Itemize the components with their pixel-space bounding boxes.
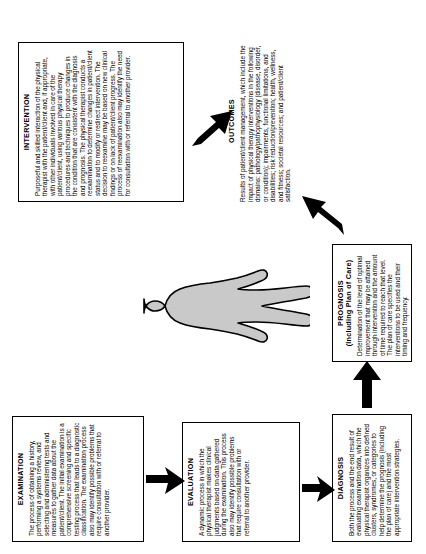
box-evaluation-body: A dynamic process in which the physical … <box>198 428 251 536</box>
box-intervention-body: Purposeful and skilled interaction of th… <box>34 48 132 196</box>
arrow-prognosis-to-intervention <box>300 194 346 238</box>
box-prognosis-body: Determination of the level of optimal im… <box>356 250 409 356</box>
box-diagnosis-title: DIAGNOSIS <box>337 420 345 536</box>
box-examination-body: The process of obtaining a history, perf… <box>28 422 111 536</box>
text-outcomes-body: Results of patient/client management, wh… <box>239 40 292 202</box>
box-prognosis-title: PROGNOSIS (Including Plan of Care) <box>337 250 354 356</box>
box-intervention: INTERVENTION Purposeful and skilled inte… <box>18 42 184 202</box>
box-prognosis: PROGNOSIS (Including Plan of Care) Deter… <box>332 244 412 362</box>
diagram-stage: EXAMINATION The process of obtaining a h… <box>0 0 426 554</box>
text-outcomes: OUTCOMES Results of patient/client manag… <box>228 40 336 202</box>
arrow-evaluation-to-diagnosis <box>302 474 336 504</box>
box-examination-title: EXAMINATION <box>17 422 25 536</box>
patient-client-silhouette-icon <box>140 234 310 364</box>
box-examination: EXAMINATION The process of obtaining a h… <box>12 416 144 542</box>
diagram-canvas: EXAMINATION The process of obtaining a h… <box>0 0 426 554</box>
box-diagnosis-body: Both the process and the end result of e… <box>348 420 401 536</box>
box-evaluation-title: EVALUATION <box>187 428 195 536</box>
box-intervention-title: INTERVENTION <box>23 48 31 196</box>
arrow-examination-to-evaluation <box>146 466 186 496</box>
arrow-diagnosis-to-prognosis <box>352 360 382 408</box>
arrow-intervention-to-outcomes <box>190 108 234 150</box>
box-diagnosis: DIAGNOSIS Both the process and the end r… <box>332 414 412 542</box>
box-evaluation: EVALUATION A dynamic process in which th… <box>182 422 300 542</box>
